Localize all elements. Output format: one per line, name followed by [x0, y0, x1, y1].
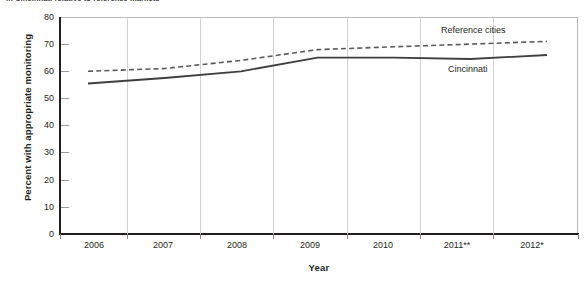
series-label-reference-cities: Reference cities — [441, 25, 506, 35]
series-lines — [0, 0, 588, 283]
chart-figure: in Cincinnati relative to reference mark… — [0, 0, 588, 283]
series-label-cincinnati: Cincinnati — [448, 64, 488, 74]
